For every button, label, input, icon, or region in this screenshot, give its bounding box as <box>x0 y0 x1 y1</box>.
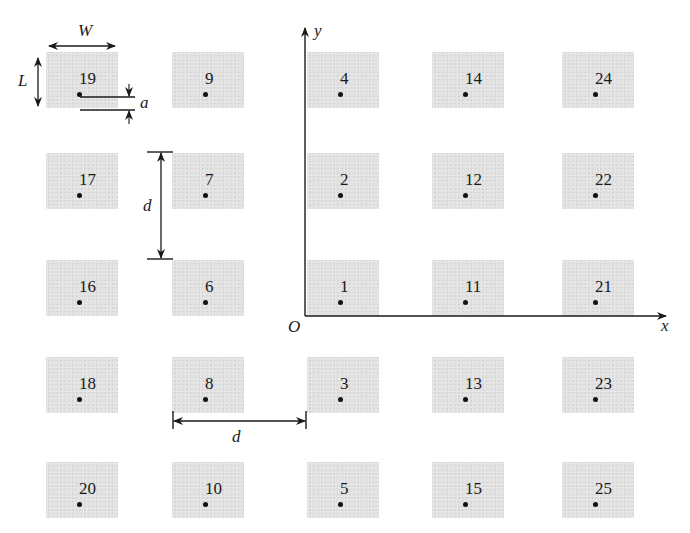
w-label: W <box>78 22 92 39</box>
annotation-lines <box>0 0 690 533</box>
d-vertical-label: d <box>143 197 152 214</box>
origin-label: O <box>288 318 300 335</box>
y-axis-label: y <box>314 22 322 39</box>
a-label: a <box>140 94 149 111</box>
x-axis-label: x <box>661 317 669 334</box>
d-horizontal-label: d <box>232 428 241 445</box>
l-label: L <box>18 72 27 89</box>
array-diagram: 1994142417721222166111211883132320105152… <box>0 0 690 533</box>
